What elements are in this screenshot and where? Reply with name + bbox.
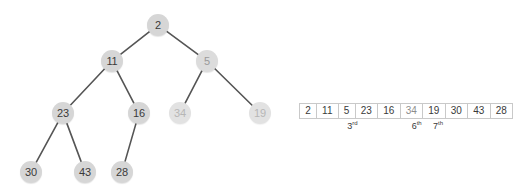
array-ordinal-label: 3rd — [347, 120, 357, 132]
tree-node: 16 — [128, 102, 150, 124]
array-cell: 30 — [446, 104, 468, 118]
tree-edge — [166, 31, 199, 55]
tree-node: 34 — [169, 102, 191, 124]
array-cell: 16 — [378, 104, 400, 118]
tree-edge-layer — [0, 0, 290, 191]
array-cell: 43 — [468, 104, 490, 118]
tree-node: 43 — [74, 161, 96, 183]
tree-edge — [125, 123, 136, 163]
tree-node: 2 — [147, 14, 169, 36]
array-cell: 23 — [356, 104, 378, 118]
array-representation: 211523163419304328 3rd6th7th — [299, 103, 513, 134]
array-cell: 28 — [491, 104, 512, 118]
binary-tree-diagram: 211523163419304328 — [0, 0, 290, 191]
ordinal-suffix: th — [438, 120, 443, 126]
tree-edge — [117, 70, 135, 104]
tree-node: 19 — [249, 102, 271, 124]
tree-edge — [185, 70, 203, 104]
array-cell: 5 — [339, 104, 356, 118]
array-ordinal-labels: 3rd6th7th — [299, 120, 513, 134]
tree-node: 28 — [111, 161, 133, 183]
tree-node: 11 — [101, 50, 123, 72]
tree-edge — [120, 31, 150, 55]
tree-edge — [70, 68, 105, 105]
array-cell: 19 — [423, 104, 445, 118]
tree-node: 23 — [52, 102, 74, 124]
array-cell: 2 — [300, 104, 317, 118]
tree-edge — [66, 122, 81, 162]
tree-edge — [214, 68, 253, 106]
ordinal-suffix: th — [417, 120, 422, 126]
array-ordinal-label: 7th — [433, 120, 443, 132]
array-ordinal-label: 6th — [412, 120, 422, 132]
tree-node: 30 — [20, 161, 42, 183]
tree-node: 5 — [196, 50, 218, 72]
array-cell: 11 — [317, 104, 339, 118]
tree-edge — [36, 122, 58, 163]
array-cell-row: 211523163419304328 — [299, 103, 513, 119]
array-cell: 34 — [401, 104, 423, 118]
diagram-canvas: 211523163419304328 211523163419304328 3r… — [0, 0, 526, 191]
ordinal-suffix: rd — [352, 120, 357, 126]
